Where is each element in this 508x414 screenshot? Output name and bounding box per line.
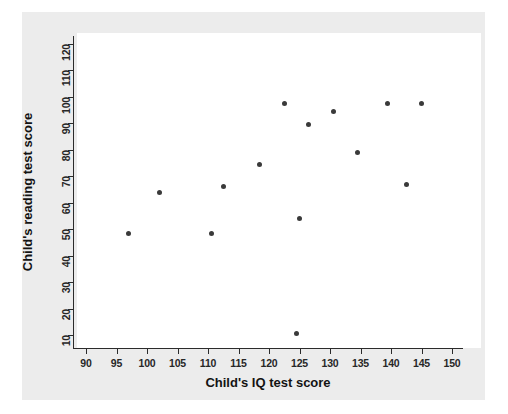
data-point: [331, 109, 336, 114]
x-axis-tick-label: 150: [432, 357, 472, 369]
y-axis-tick-label: 120: [60, 44, 72, 61]
x-axis-tick-mark: [452, 349, 453, 354]
y-axis-tick-label: 30: [60, 282, 72, 293]
data-point: [126, 231, 131, 236]
y-axis-tick-label: 60: [60, 203, 72, 214]
x-axis-tick-mark: [330, 349, 331, 354]
x-axis-tick-mark: [208, 349, 209, 354]
data-point: [404, 182, 409, 187]
y-axis-tick-label: 100: [60, 97, 72, 114]
plot-canvas: [77, 33, 481, 348]
x-axis-tick-mark: [300, 349, 301, 354]
x-axis-line: [73, 348, 463, 349]
y-axis-tick-label: 110: [60, 70, 72, 86]
y-axis-tick-label: 90: [60, 123, 72, 134]
x-axis-tick-mark: [178, 349, 179, 354]
x-axis-tick-mark: [239, 349, 240, 354]
x-axis-tick-mark: [269, 349, 270, 354]
y-axis-tick-label: 70: [60, 176, 72, 187]
y-axis-tick-label: 20: [60, 309, 72, 320]
data-point: [157, 190, 162, 195]
x-axis-tick-mark: [422, 349, 423, 354]
x-axis-tick-mark: [117, 349, 118, 354]
data-point: [419, 101, 424, 106]
x-axis-tick-mark: [391, 349, 392, 354]
y-axis-title: Child's reading test score: [20, 113, 35, 271]
x-axis-tick-mark: [361, 349, 362, 354]
y-axis-line: [73, 36, 74, 349]
x-axis-tick-mark: [147, 349, 148, 354]
y-axis-tick-label: 50: [60, 229, 72, 240]
x-axis-title: Child's IQ test score: [73, 375, 463, 390]
y-axis-tick-label: 80: [60, 150, 72, 161]
data-point: [282, 101, 287, 106]
x-axis-tick-mark: [86, 349, 87, 354]
y-axis-tick-label: 40: [60, 256, 72, 267]
data-point: [355, 150, 360, 155]
y-axis-tick-label: 10: [60, 335, 72, 346]
data-point: [209, 231, 214, 236]
scatter-plot-figure: 9095100105110115120125130135140145150 10…: [0, 0, 508, 414]
